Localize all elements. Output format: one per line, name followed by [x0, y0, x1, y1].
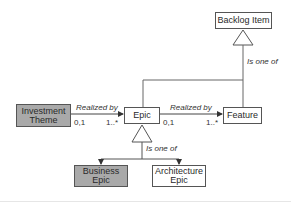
- node-architecture-epic: Architecture Epic: [152, 165, 206, 187]
- label-epic-realized-by: Realized by: [170, 103, 212, 112]
- diagram-connectors: [0, 0, 291, 203]
- node-epic: Epic: [124, 107, 160, 124]
- generalization-triangle-epic: [132, 125, 152, 142]
- node-investment-theme-line2: Theme: [29, 116, 57, 125]
- node-feature-label: Feature: [227, 111, 258, 120]
- node-investment-theme: Investment Theme: [16, 104, 71, 127]
- label-theme-target-mult: 1..*: [106, 118, 118, 127]
- label-epic-is-one-of: Is one of: [146, 144, 177, 153]
- node-feature: Feature: [223, 107, 262, 124]
- bottom-divider: [0, 201, 291, 202]
- label-epic-target-mult: 1..*: [206, 118, 218, 127]
- node-business-epic: Business Epic: [74, 165, 128, 187]
- label-backlog-is-one-of: Is one of: [247, 57, 278, 66]
- node-business-epic-line2: Epic: [92, 176, 110, 185]
- node-epic-label: Epic: [133, 111, 151, 120]
- generalization-triangle-backlog: [233, 30, 253, 45]
- node-architecture-epic-line2: Epic: [170, 176, 188, 185]
- node-backlog-item: Backlog Item: [215, 12, 272, 29]
- label-theme-realized-by: Realized by: [76, 103, 118, 112]
- node-backlog-item-label: Backlog Item: [217, 16, 269, 25]
- label-epic-source-mult: 0,1: [163, 118, 174, 127]
- label-theme-source-mult: 0,1: [74, 118, 85, 127]
